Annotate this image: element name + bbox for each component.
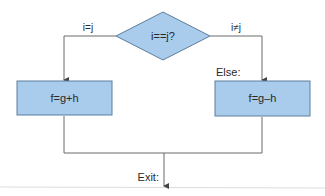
else-label: Else: [216, 66, 240, 78]
true-branch-label: f=g+h [50, 92, 78, 104]
exit-label: Exit: [138, 171, 159, 183]
page-separator [0, 187, 325, 188]
edge-true [64, 36, 116, 80]
edge-false-label: i≠j [231, 22, 241, 33]
edge-true-label: i=j [83, 22, 93, 33]
decision-label: i==j? [151, 30, 175, 42]
flowchart: i==j? i=j i≠j Else: f=g+h f=g–h Exit: [0, 0, 325, 196]
false-branch-label: f=g–h [249, 92, 277, 104]
edge-merge [64, 116, 262, 153]
